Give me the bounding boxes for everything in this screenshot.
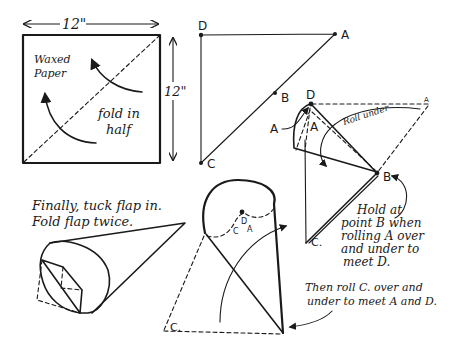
- figure-2-triangle: D A B C: [198, 19, 350, 171]
- roll-c-note-line2: under to meet A and D.: [307, 295, 437, 308]
- point-a-label: A: [341, 28, 350, 42]
- final-note-line2: Fold flap twice.: [31, 214, 133, 229]
- point-a-outer-label: A: [270, 122, 279, 136]
- dashed-left-edge: [164, 236, 204, 330]
- point-d-dot: [309, 102, 314, 107]
- roll-under-label: Roll under: [341, 102, 391, 127]
- hold-note-line4: and under to: [341, 242, 419, 256]
- roll-c-note-line1: Then roll C. over and: [305, 281, 423, 294]
- point-b-label: B: [383, 170, 391, 184]
- point-c-label: C: [233, 227, 239, 236]
- rolled-cone-outline: [203, 180, 283, 333]
- hold-note: Hold at point B when rolling A over and …: [341, 203, 428, 269]
- hold-note-line2: point B when: [341, 216, 422, 230]
- original-hypotenuse: [377, 106, 428, 173]
- hold-note-line3: rolling A over: [341, 229, 425, 243]
- point-a-far-label: A: [424, 96, 429, 104]
- hold-note-line5: meet D.: [343, 255, 390, 269]
- paper-label-line1: Waxed: [34, 53, 71, 66]
- height-label: 12": [164, 84, 187, 99]
- point-b-label: B: [281, 91, 289, 105]
- point-c-dot: [199, 161, 203, 165]
- figure-1-square-paper: 12" 12" Waxed Paper fold in half: [23, 15, 187, 163]
- fold-label-line1: fold in: [97, 106, 140, 121]
- point-d-dot: [240, 210, 245, 215]
- paper-cone-folding-diagram: 12" 12" Waxed Paper fold in half D A B C: [0, 0, 452, 357]
- tucked-flap: [42, 260, 82, 313]
- corner-c-label: C.: [170, 321, 181, 334]
- point-b-dot: [375, 171, 380, 176]
- final-note: Finally, tuck flap in. Fold flap twice.: [31, 198, 166, 229]
- point-d-label: D: [198, 19, 207, 33]
- cone-opening: [40, 241, 109, 313]
- point-a-inner-label: A: [310, 120, 319, 134]
- figure-5-finished-cone: Finally, tuck flap in. Fold flap twice.: [31, 198, 185, 313]
- paper-label-line2: Paper: [33, 67, 67, 80]
- figure-3-roll-a: D A A A B C. Roll under Hold at point B …: [270, 88, 429, 269]
- point-a-label: A: [247, 225, 253, 234]
- diagonal-edge: [206, 234, 283, 333]
- point-a-dot: [333, 32, 337, 36]
- then-roll-arrow: [290, 311, 332, 327]
- point-d-dot: [199, 33, 203, 37]
- point-c-label: C.: [311, 236, 322, 249]
- point-d-label: D: [306, 88, 315, 102]
- fold-label-line2: half: [106, 122, 133, 137]
- point-c-label: C: [207, 157, 215, 171]
- point-b-dot: [273, 91, 277, 95]
- final-note-line1: Finally, tuck flap in.: [31, 198, 162, 213]
- fold-arrow-upper: [92, 60, 142, 92]
- dashed-bottom-edge: [164, 331, 282, 334]
- roll-c-note: Then roll C. over and under to meet A an…: [305, 281, 437, 308]
- width-label: 12": [62, 16, 86, 32]
- hold-note-line1: Hold at: [356, 203, 402, 217]
- edge-d-to-c: [305, 140, 306, 243]
